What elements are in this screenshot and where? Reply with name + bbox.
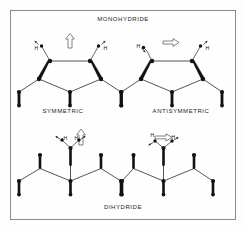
bond-chain-left-center	[134, 169, 164, 182]
arrow-up-outline-icon	[66, 34, 75, 49]
hydrogen-label-right: H	[172, 134, 176, 140]
bond-ring-lower-left	[39, 79, 70, 92]
bond-hydrogen-left	[62, 140, 71, 148]
bulk-rod-right	[220, 90, 224, 108]
atom-ring-base-left	[139, 77, 143, 81]
bond-ring-lower-left	[141, 79, 172, 92]
bulk-rod-center	[68, 179, 72, 197]
hydrogen-label-left: H	[35, 45, 39, 51]
rod-upper-right	[99, 153, 103, 169]
displacement-arrow-left	[55, 136, 60, 139]
bond-chain-left-center	[40, 169, 71, 182]
bond-chain-outer-right	[194, 169, 213, 182]
rod-upper-left	[38, 153, 42, 169]
bond-chain-outer-left	[122, 169, 134, 182]
bond-hydrogen-right	[192, 46, 201, 61]
hydrogen-label-left: H	[137, 43, 141, 49]
rod-upper-right	[192, 153, 196, 169]
panel-dihydride-symmetric: H H	[17, 129, 123, 197]
panel-monohydride-symmetric: H H	[17, 34, 123, 108]
bond-outer-left	[122, 79, 142, 92]
atom-hydrogen-left	[142, 46, 145, 49]
bond-outer-left	[19, 79, 39, 92]
arrow-right-outline-icon	[155, 134, 172, 141]
atom-ring-base-left	[37, 77, 41, 81]
displacement-arrow-left	[148, 143, 153, 146]
bulk-rod-center	[161, 179, 165, 197]
bulk-rod-left	[17, 179, 21, 197]
bond-chain-outer-right	[101, 169, 121, 182]
bond-ring-lower-right	[172, 79, 203, 92]
hydrogen-label-right: H	[104, 45, 108, 51]
hydrogen-label-right: H	[75, 135, 79, 141]
atom-ring-base-right	[201, 77, 205, 81]
rod-apex-center	[68, 146, 72, 166]
bulk-rod-center	[170, 90, 174, 108]
atom-hydrogen-right	[199, 44, 202, 47]
panel-dihydride-antisymmetric: H H	[120, 132, 215, 197]
rod-apex-center	[161, 146, 165, 166]
bond-ring-lower-right	[70, 79, 101, 92]
bond-chain-outer-left	[19, 169, 40, 182]
hydrogen-label-left: H	[151, 132, 155, 138]
bulk-rod-center	[68, 90, 72, 108]
atom-hydrogen-left	[153, 139, 156, 142]
bond-hydrogen-right	[71, 140, 80, 148]
bulk-rod-left	[17, 90, 21, 108]
molecular-structures: H H	[0, 0, 246, 230]
bond-outer-right	[101, 79, 121, 92]
bond-hydrogen-left	[144, 48, 153, 62]
bond-chain-center-right	[164, 169, 195, 182]
bulk-rod-right	[211, 179, 215, 197]
figure-canvas: MONOHYDRIDE SYMMETRIC ANTISYMMETRIC DIHY…	[0, 0, 246, 230]
bond-outer-right	[203, 79, 222, 92]
atom-ring-base-right	[99, 77, 103, 81]
atom-hydrogen-left	[40, 44, 43, 47]
bond-hydrogen-left	[42, 46, 51, 61]
bond-hydrogen-right	[90, 46, 99, 61]
rod-upper-left	[131, 153, 135, 169]
atom-hydrogen-right	[97, 44, 100, 47]
panel-monohydride-antisymmetric: H H	[119, 39, 224, 108]
bond-chain-center-right	[71, 169, 102, 182]
hydrogen-label-right: H	[206, 45, 210, 51]
arrow-right-outline-icon	[163, 39, 179, 47]
hydrogen-label-left: H	[64, 135, 68, 141]
